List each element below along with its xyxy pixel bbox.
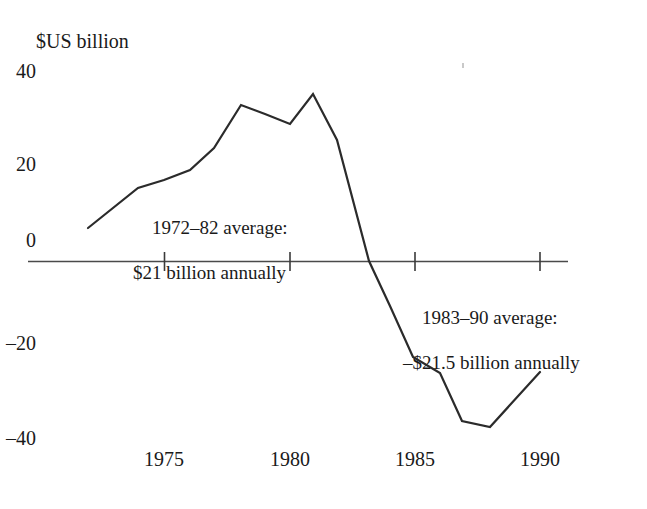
x-axis [28, 252, 568, 271]
data-series-line [88, 94, 540, 427]
chart-figure: $US billion 40 20 0 –20 –40 1975 1980 19… [0, 0, 647, 509]
plot-area [0, 0, 647, 509]
